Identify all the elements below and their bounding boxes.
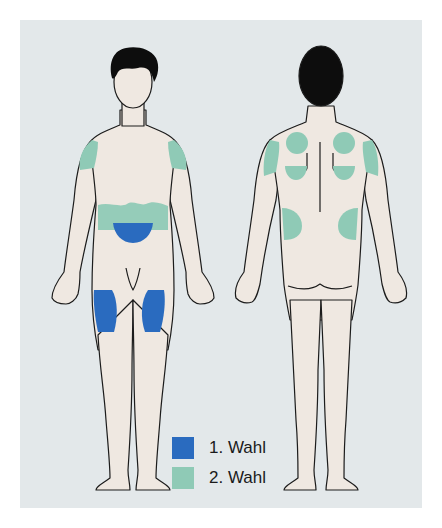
legend-item-second-choice: 2. Wahl [172, 463, 266, 493]
legend-label: 1. Wahl [209, 438, 266, 458]
legend-item-first-choice: 1. Wahl [172, 433, 266, 463]
back-figure [235, 46, 406, 490]
legend-swatch-blue [172, 437, 194, 459]
legend-label: 2. Wahl [209, 468, 266, 488]
back-left-leg [284, 300, 321, 490]
front-figure [52, 47, 214, 490]
zone-2-back-left-upper [286, 132, 308, 154]
back-right-leg [321, 300, 358, 490]
legend-swatch-green [172, 467, 194, 489]
back-head [299, 46, 343, 106]
legend: 1. Wahl 2. Wahl [172, 433, 266, 493]
zone-2-back-right-upper [333, 132, 355, 154]
zone-1-front-right-thigh [142, 290, 165, 332]
zone-1-front-left-thigh [94, 290, 117, 332]
